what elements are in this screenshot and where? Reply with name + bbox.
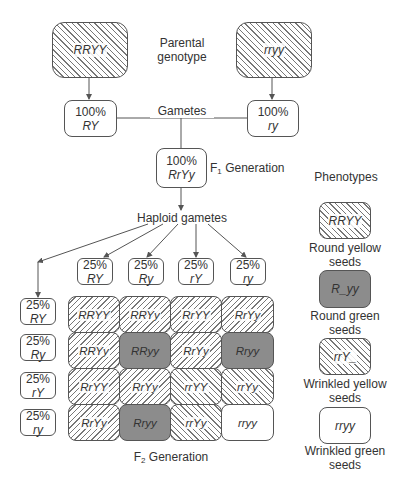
parent-rryy-recessive-box: rryy — [236, 22, 312, 78]
punnett-cell: Rryy — [119, 404, 171, 441]
legend-label-wrinkled-yellow: Wrinkled yellow seeds — [296, 377, 394, 405]
punnett-cell: RrYy — [170, 332, 222, 369]
haploid-top-box: 25%ry — [230, 258, 266, 285]
haploid-left-box: 25%RY — [20, 298, 56, 325]
haploid-left-box: 25%ry — [20, 409, 56, 436]
parent-genotype: RRYY — [73, 43, 108, 57]
parental-genotype-label: Parental genotype — [150, 36, 214, 64]
punnett-cell: RrYy — [68, 404, 120, 441]
legend-label-round-yellow: Round yellow seeds — [300, 241, 390, 269]
legend-swatch-wrinkled-green: rryy — [319, 407, 371, 444]
punnett-cell: RrYY — [170, 296, 222, 333]
f2-generation-label: F2 Generation — [131, 450, 211, 468]
punnett-cell: rrYY — [170, 368, 222, 405]
haploid-left-box: 25%rY — [20, 372, 56, 399]
punnett-cell: rryy — [221, 404, 274, 441]
gamete-box-left: 100% RY — [64, 100, 117, 137]
haploid-top-box: 25%rY — [178, 258, 214, 285]
legend-swatch-round-yellow: RRYY — [319, 202, 371, 239]
punnett-cell: Rryy — [221, 332, 274, 369]
haploid-left-box: 25%Ry — [20, 334, 56, 361]
punnett-cell: RrYy — [119, 368, 171, 405]
gamete-box-right: 100% ry — [247, 100, 299, 137]
haploid-top-box: 25%Ry — [128, 258, 164, 285]
legend-label-wrinkled-green: Wrinkled green seeds — [296, 444, 394, 472]
haploid-gametes-label: Haploid gametes — [132, 211, 232, 225]
punnett-cell: RRYY — [68, 296, 120, 333]
punnett-cell: RRyy — [119, 332, 171, 369]
legend-title: Phenotypes — [311, 170, 381, 184]
legend-label-round-green: Round green seeds — [300, 309, 390, 337]
punnett-cell: RRYy — [68, 332, 120, 369]
punnett-cell: rrYy — [221, 368, 274, 405]
legend-swatch-wrinkled-yellow: rrY_ — [319, 338, 371, 375]
f1-box: 100% RrYy — [156, 148, 207, 188]
parent-rryy-dominant-box: RRYY — [52, 22, 128, 78]
parent-genotype: rryy — [263, 43, 285, 57]
gametes-label: Gametes — [150, 104, 214, 118]
punnett-cell: RrYY — [68, 368, 120, 405]
punnett-cell: RRYy — [119, 296, 171, 333]
legend-swatch-round-green: R_yy — [319, 270, 371, 308]
f1-generation-label: F1 Generation — [210, 161, 285, 179]
punnett-cell: RrYy — [221, 296, 274, 333]
punnett-cell: rrYy — [170, 404, 222, 441]
haploid-top-box: 25%RY — [77, 258, 113, 285]
